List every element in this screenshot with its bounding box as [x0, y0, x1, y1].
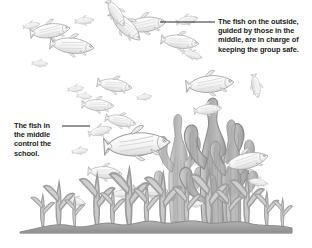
fish-school-illustration: The fish on the outside, guided by those… — [0, 0, 312, 248]
callout-text-outside-fish: The fish on the outside, guided by those… — [218, 17, 312, 54]
callout-text-middle-fish: The fish in the middle control the schoo… — [14, 121, 66, 158]
